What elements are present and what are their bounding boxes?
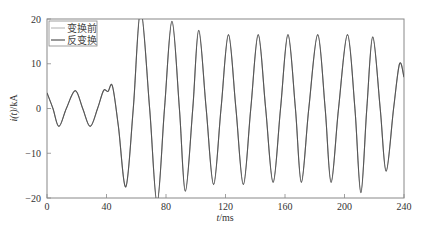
y-axis-label: i(t)/kA (8, 94, 20, 122)
y-tick-label: −20 (25, 193, 41, 204)
y-tick-label: 10 (31, 58, 41, 69)
line-chart: 04080120160200240 −20−1001020 变换前 反变换 t/… (0, 0, 425, 239)
plot-area (47, 19, 404, 198)
y-axis-tick-labels: −20−1001020 (25, 14, 41, 204)
series-lines (47, 10, 404, 202)
series-line-before-transform (47, 10, 404, 202)
y-tick-label: 20 (31, 14, 41, 25)
legend-label-inverse: 反变换 (67, 34, 97, 46)
axis-ticks (47, 19, 404, 198)
x-tick-label: 160 (278, 201, 293, 212)
x-axis-tick-labels: 04080120160200240 (45, 201, 412, 212)
x-tick-label: 80 (161, 201, 171, 212)
x-axis-label: t/ms (216, 212, 233, 223)
x-tick-label: 0 (45, 201, 50, 212)
legend-label-before: 变换前 (67, 22, 97, 34)
y-tick-label: −10 (25, 148, 41, 159)
series-line-inverse-transform (47, 10, 404, 202)
legend: 变换前 反变换 (49, 21, 97, 46)
x-tick-label: 120 (218, 201, 233, 212)
x-tick-label: 40 (102, 201, 112, 212)
x-tick-label: 200 (337, 201, 352, 212)
x-tick-label: 240 (397, 201, 412, 212)
y-tick-label: 0 (36, 103, 41, 114)
